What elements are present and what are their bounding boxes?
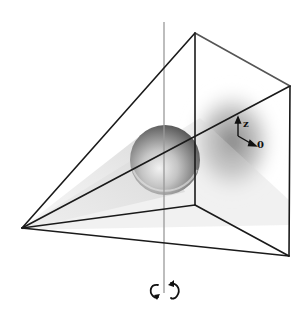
edge-apex-bottom-right [22,228,289,256]
theta-axis-label: 0 [257,139,264,150]
frustum-sphere-diagram: z 0 [0,0,307,320]
z-axis-label: z [243,118,249,129]
rotate-cw-arrowhead-icon [168,280,174,287]
edge-right-vertical [289,86,290,256]
edge-top [195,33,290,86]
sphere [130,125,200,195]
